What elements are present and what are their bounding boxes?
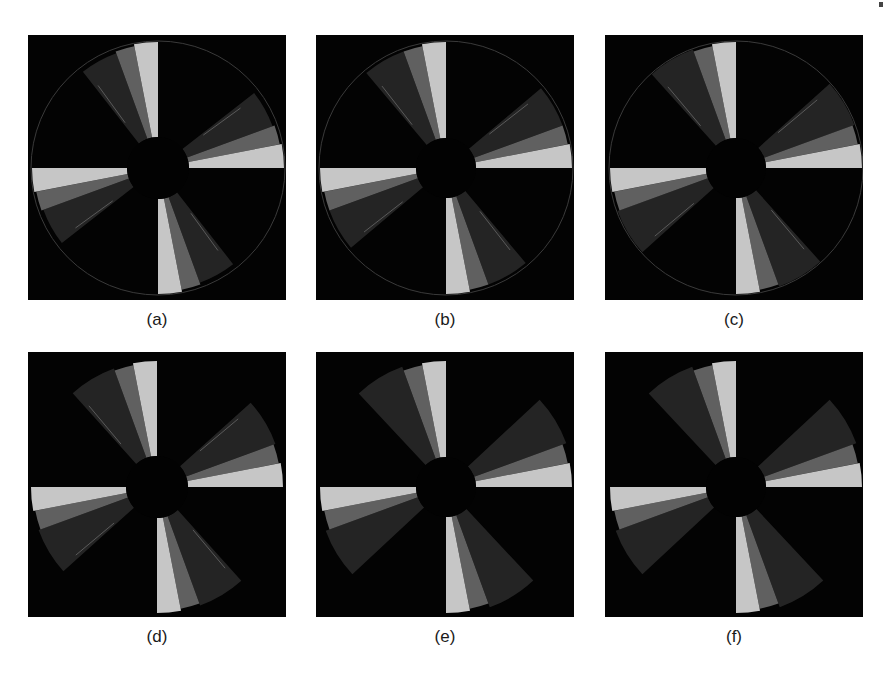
caption-d: (d) — [117, 627, 197, 647]
panel-f-image — [605, 352, 863, 617]
panel-e-image — [316, 352, 574, 617]
panel-d-image — [28, 352, 286, 617]
windmill-pattern-b — [316, 35, 574, 300]
hub-disc — [126, 456, 188, 518]
caption-c: (c) — [694, 310, 774, 330]
panel-c-image — [605, 35, 863, 300]
windmill-pattern-a — [28, 35, 286, 300]
caption-b: (b) — [405, 310, 485, 330]
hub-disc — [706, 138, 766, 198]
windmill-pattern-c — [605, 35, 863, 300]
windmill-pattern-f — [605, 352, 863, 617]
windmill-pattern-d — [28, 352, 286, 617]
panel-a-image — [28, 35, 286, 300]
hub-disc — [127, 137, 189, 199]
caption-e: (e) — [405, 627, 485, 647]
hub-disc — [416, 457, 476, 517]
page-corner-mark — [879, 2, 883, 7]
hub-disc — [706, 457, 766, 517]
windmill-pattern-e — [316, 352, 574, 617]
caption-a: (a) — [117, 310, 197, 330]
caption-f: (f) — [694, 627, 774, 647]
hub-disc — [416, 138, 476, 198]
panel-b-image — [316, 35, 574, 300]
